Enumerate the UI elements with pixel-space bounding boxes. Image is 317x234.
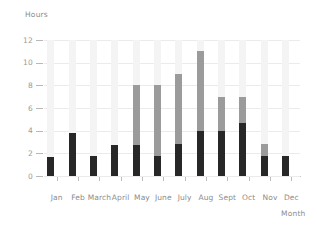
y-axis-tick-mark (36, 63, 43, 64)
bar-segment-base (111, 145, 118, 176)
bar-segment-target (218, 40, 225, 97)
y-axis-tick-label: 12 (11, 36, 33, 45)
bar-segment-target (197, 40, 204, 51)
bar-group[interactable] (175, 40, 182, 176)
bar-segment-target (47, 40, 54, 157)
bar-group[interactable] (197, 40, 204, 176)
bar-segment-target (175, 40, 182, 74)
bar-segment-base (69, 133, 76, 176)
bar-segment-target (239, 40, 246, 97)
bar-group[interactable] (47, 40, 54, 176)
x-axis-tick-mark (185, 177, 186, 181)
x-axis-tick-mark (99, 177, 100, 181)
bar-group[interactable] (239, 40, 246, 176)
x-axis-tick-mark (270, 177, 271, 181)
y-axis-tick-mark (36, 131, 43, 132)
y-axis-tick-mark (36, 85, 43, 86)
bar-segment-base (47, 157, 54, 176)
bar-chart: Hours Month 024681012 JanFebMarchAprilMa… (0, 0, 317, 234)
x-axis-tick-mark (142, 177, 143, 181)
x-axis-tick-mark (163, 177, 164, 181)
y-axis-tick-label: 8 (11, 81, 33, 90)
bar-segment-target (90, 40, 97, 156)
y-axis-title: Hours (25, 10, 48, 19)
x-axis-tick-mark (57, 177, 58, 181)
bar-segment-mid (133, 85, 140, 145)
y-axis-tick-label: 10 (11, 58, 33, 67)
y-axis-tick-mark (36, 40, 43, 41)
bar-segment-base (133, 145, 140, 176)
bar-segment-mid (154, 85, 161, 155)
bar-group[interactable] (218, 40, 225, 176)
x-axis-tick-label: Dec (276, 193, 306, 202)
x-axis-tick-mark (78, 177, 79, 181)
x-axis-tick-mark (227, 177, 228, 181)
bar-group[interactable] (261, 40, 268, 176)
y-axis-tick-mark (36, 108, 43, 109)
bar-segment-base (90, 156, 97, 176)
x-axis-tick-mark (291, 177, 292, 181)
bar-segment-base (175, 144, 182, 176)
bar-segment-mid (261, 144, 268, 155)
x-axis-tick-mark (206, 177, 207, 181)
bar-segment-mid (239, 97, 246, 123)
bar-segment-target (133, 40, 140, 85)
bar-segment-target (111, 40, 118, 145)
bar-group[interactable] (111, 40, 118, 176)
y-axis-tick-label: 0 (11, 172, 33, 181)
bar-segment-base (154, 156, 161, 176)
bar-segment-target (69, 40, 76, 133)
plot-area (44, 40, 300, 176)
bar-segment-mid (175, 74, 182, 144)
bar-segment-base (239, 123, 246, 176)
gridline (44, 176, 300, 177)
x-axis-title: Month (281, 209, 306, 218)
x-axis-tick-mark (249, 177, 250, 181)
bar-segment-base (261, 156, 268, 176)
y-axis-tick-label: 6 (11, 104, 33, 113)
x-axis-tick-mark (121, 177, 122, 181)
y-axis-tick-label: 4 (11, 126, 33, 135)
bar-segment-target (261, 40, 268, 144)
bar-group[interactable] (154, 40, 161, 176)
bar-group[interactable] (90, 40, 97, 176)
bar-group[interactable] (282, 40, 289, 176)
bar-segment-base (197, 131, 204, 176)
y-axis-tick-mark (36, 176, 43, 177)
bar-segment-mid (197, 51, 204, 130)
bar-segment-target (282, 40, 289, 156)
y-axis-tick-mark (36, 153, 43, 154)
bar-segment-base (218, 131, 225, 176)
bar-group[interactable] (69, 40, 76, 176)
bar-segment-base (282, 156, 289, 176)
y-axis-tick-label: 2 (11, 149, 33, 158)
bar-segment-mid (218, 97, 225, 131)
bar-group[interactable] (133, 40, 140, 176)
bar-segment-target (154, 40, 161, 85)
